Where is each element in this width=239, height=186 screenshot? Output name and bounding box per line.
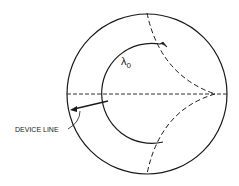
diagram-canvas: λ0 DEVICE LINE [0,0,239,186]
arrow-head-icon [160,42,167,47]
lambda-arc [102,43,163,143]
lower-dashed-arc [147,94,215,174]
upper-dashed-arc [147,13,215,94]
device-line-label: DEVICE LINE [15,126,59,133]
lambda-label: λ0 [121,55,132,70]
device-arrow-head-icon [70,106,77,112]
